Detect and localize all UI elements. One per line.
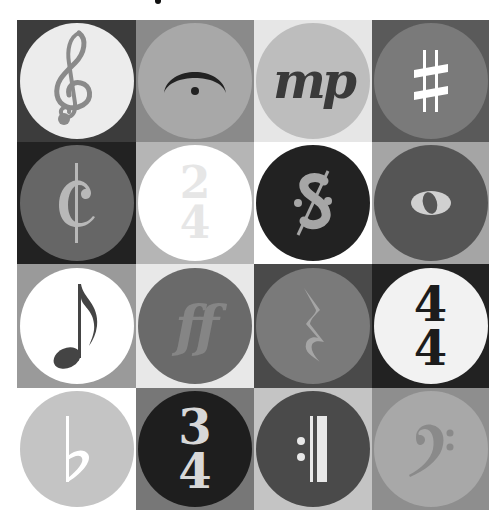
time-signature-bottom: 4: [414, 326, 447, 370]
music-symbol-grid: mp: [17, 20, 489, 510]
eighth-note-icon: [52, 280, 102, 372]
tile-circle: [374, 145, 488, 261]
tile-sharp: [372, 20, 489, 142]
flat-icon: [62, 416, 92, 482]
cut-time-icon: [55, 163, 99, 243]
tile-circle: [138, 23, 252, 139]
end-repeat-icon: [296, 416, 330, 482]
segno-icon: [290, 169, 336, 237]
tile-circle: [256, 145, 370, 261]
whole-note-icon: [411, 190, 451, 216]
time-signature-bottom: 4: [178, 449, 211, 493]
tile-circle: [20, 23, 134, 139]
tile-bass-clef: [372, 388, 489, 510]
tile-time-signature-3-4: 3 4: [136, 388, 254, 510]
tile-fortissimo: ff: [136, 264, 254, 388]
tile-circle: [256, 268, 370, 384]
tile-flat: [17, 388, 136, 510]
time-signature-3-4: 3 4: [178, 405, 211, 493]
tile-circle: [20, 268, 134, 384]
top-edge-mark: [155, 0, 161, 4]
tile-circle: ff: [138, 268, 252, 384]
tile-mezzo-piano: mp: [254, 20, 372, 142]
tile-circle: [374, 23, 488, 139]
tile-circle: [20, 391, 134, 507]
sharp-icon: [414, 50, 448, 112]
tile-fermata: [136, 20, 254, 142]
tile-time-signature-2-4: 2 4: [136, 142, 254, 264]
tile-quarter-rest: [254, 264, 372, 388]
time-signature-bottom: 4: [180, 203, 211, 243]
tile-circle: 4 4: [374, 268, 488, 384]
tile-whole-note: [372, 142, 489, 264]
tile-end-repeat: [254, 388, 372, 510]
mezzo-piano-label: mp: [273, 56, 353, 106]
tile-treble-clef: [17, 20, 136, 142]
fortissimo-label: ff: [175, 298, 215, 354]
time-signature-2-4: 2 4: [180, 163, 211, 243]
quarter-rest-icon: [298, 286, 328, 366]
tile-circle: 3 4: [138, 391, 252, 507]
bass-clef-icon: [406, 419, 456, 479]
tile-cut-time: [17, 142, 136, 264]
tile-circle: [256, 391, 370, 507]
tile-circle: [20, 145, 134, 261]
tile-circle: mp: [256, 23, 370, 139]
treble-clef-icon: [47, 29, 107, 133]
tile-circle: 2 4: [138, 145, 252, 261]
time-signature-4-4: 4 4: [414, 282, 447, 370]
tile-eighth-note: [17, 264, 136, 388]
tile-segno: [254, 142, 372, 264]
tile-time-signature-4-4: 4 4: [372, 264, 489, 388]
tile-circle: [374, 391, 488, 507]
fermata-icon: [162, 59, 228, 103]
